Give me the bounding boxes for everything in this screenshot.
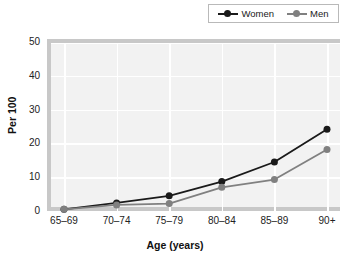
legend-label-women: Women xyxy=(241,9,274,19)
y-axis-tick-label: 50 xyxy=(0,37,40,47)
gridline-vertical xyxy=(169,43,171,211)
chart-legend: Women Men xyxy=(208,4,339,23)
gridline-horizontal xyxy=(51,110,340,112)
gridline-horizontal xyxy=(51,143,340,145)
x-axis-tick-label: 70–74 xyxy=(87,216,147,226)
x-axis-tick-label: 80–84 xyxy=(192,216,252,226)
x-axis-tick-label: 75–79 xyxy=(139,216,199,226)
x-axis-tick-label: 65–69 xyxy=(34,216,94,226)
gridline-vertical xyxy=(64,43,66,211)
gridline-vertical xyxy=(327,43,329,211)
legend-entry-women: Women xyxy=(218,9,274,19)
plot-gridlines xyxy=(51,43,340,211)
y-axis-tick-label: 0 xyxy=(0,206,40,216)
gridline-horizontal xyxy=(51,76,340,78)
x-axis-tick-label: 85–89 xyxy=(244,216,304,226)
gridline-horizontal xyxy=(51,43,340,44)
gridline-vertical xyxy=(274,43,276,211)
legend-marker-men-icon xyxy=(287,9,307,19)
x-axis-title: Age (years) xyxy=(0,240,350,251)
gridline-vertical xyxy=(222,43,224,211)
x-axis-tick-label: 90+ xyxy=(297,216,350,226)
legend-marker-women-icon xyxy=(218,9,238,19)
gridline-vertical xyxy=(117,43,119,211)
y-axis-tick-label: 10 xyxy=(0,172,40,182)
line-chart: Women Men 01020304050 65–6970–7475–7980–… xyxy=(0,0,350,270)
legend-label-men: Men xyxy=(310,9,328,19)
gridline-horizontal xyxy=(51,177,340,179)
legend-entry-men: Men xyxy=(287,9,328,19)
y-axis-title: Per 100 xyxy=(7,75,18,155)
